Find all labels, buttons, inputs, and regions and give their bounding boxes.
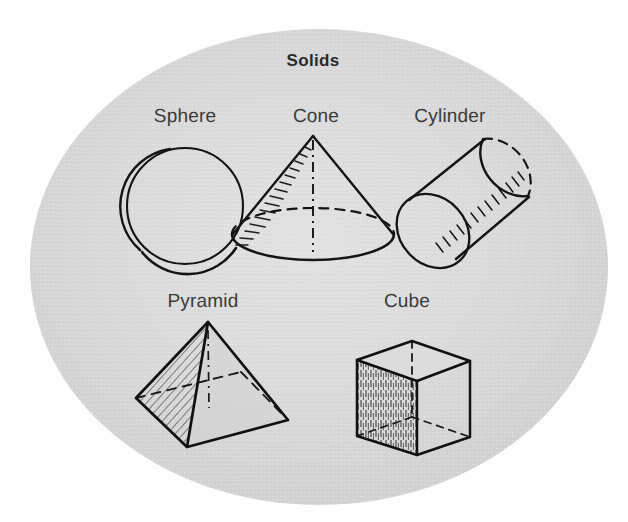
label-cube: Cube — [384, 291, 430, 313]
solids-figure: Solids Sphere Cone Cylinder Pyramid Cube — [0, 0, 628, 522]
label-pyramid: Pyramid — [167, 291, 238, 313]
label-cylinder: Cylinder — [414, 106, 485, 128]
plate-background — [30, 29, 608, 505]
figure-title: Solids — [287, 51, 340, 71]
label-cone: Cone — [293, 106, 339, 128]
solids-illustration — [0, 0, 628, 522]
label-sphere: Sphere — [154, 106, 216, 128]
